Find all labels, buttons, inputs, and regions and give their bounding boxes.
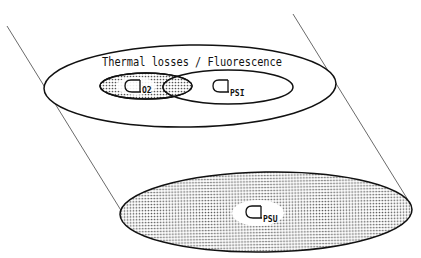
svg-text:PSU: PSU	[263, 215, 278, 224]
diagram-canvas: Thermal losses / Fluorescence O2 PSI PSU	[0, 0, 421, 258]
svg-text:PSI: PSI	[230, 89, 245, 98]
svg-text:O2: O2	[142, 86, 152, 95]
psu-region	[119, 169, 412, 254]
thermal-losses-label: Thermal losses / Fluorescence	[102, 55, 282, 69]
